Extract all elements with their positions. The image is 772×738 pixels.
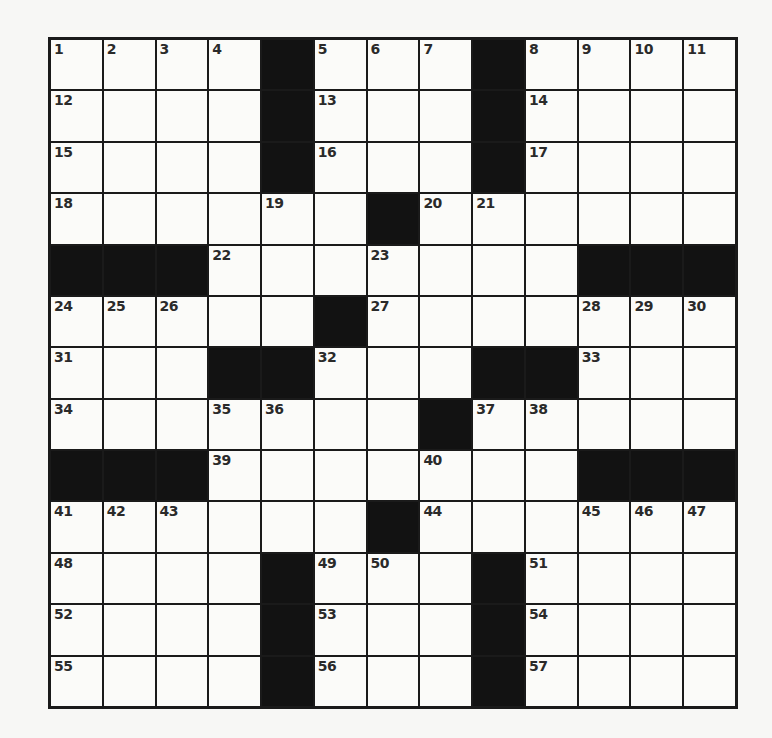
grid-cell[interactable]: 47 [684,502,735,551]
grid-cell[interactable]: 38 [526,400,577,449]
grid-cell[interactable]: 11 [684,40,735,89]
grid-cell[interactable]: 49 [315,554,366,603]
grid-cell[interactable] [684,605,735,654]
grid-cell[interactable]: 27 [368,297,419,346]
grid-cell[interactable] [631,657,682,706]
grid-cell[interactable]: 2 [104,40,155,89]
grid-cell[interactable]: 1 [51,40,102,89]
grid-cell[interactable] [157,143,208,192]
grid-cell[interactable]: 10 [631,40,682,89]
grid-cell[interactable] [209,502,260,551]
grid-cell[interactable] [157,194,208,243]
grid-cell[interactable] [579,657,630,706]
grid-cell[interactable] [579,143,630,192]
grid-cell[interactable]: 46 [631,502,682,551]
grid-cell[interactable] [157,348,208,397]
grid-cell[interactable] [420,657,471,706]
grid-cell[interactable] [262,502,313,551]
grid-cell[interactable]: 56 [315,657,366,706]
grid-cell[interactable] [104,194,155,243]
grid-cell[interactable]: 32 [315,348,366,397]
grid-cell[interactable]: 48 [51,554,102,603]
grid-cell[interactable] [104,143,155,192]
grid-cell[interactable] [262,246,313,295]
grid-cell[interactable] [526,451,577,500]
grid-cell[interactable] [473,502,524,551]
grid-cell[interactable]: 36 [262,400,313,449]
grid-cell[interactable]: 50 [368,554,419,603]
grid-cell[interactable] [368,657,419,706]
grid-cell[interactable] [315,194,366,243]
grid-cell[interactable] [631,194,682,243]
grid-cell[interactable] [104,400,155,449]
grid-cell[interactable]: 45 [579,502,630,551]
grid-cell[interactable] [209,657,260,706]
grid-cell[interactable]: 55 [51,657,102,706]
grid-cell[interactable]: 42 [104,502,155,551]
grid-cell[interactable]: 30 [684,297,735,346]
grid-cell[interactable] [579,194,630,243]
grid-cell[interactable] [315,502,366,551]
grid-cell[interactable]: 17 [526,143,577,192]
grid-cell[interactable]: 5 [315,40,366,89]
grid-cell[interactable]: 4 [209,40,260,89]
grid-cell[interactable]: 41 [51,502,102,551]
grid-cell[interactable]: 7 [420,40,471,89]
grid-cell[interactable] [526,194,577,243]
grid-cell[interactable] [526,246,577,295]
grid-cell[interactable]: 40 [420,451,471,500]
grid-cell[interactable]: 26 [157,297,208,346]
grid-cell[interactable]: 22 [209,246,260,295]
grid-cell[interactable] [631,348,682,397]
grid-cell[interactable] [526,297,577,346]
grid-cell[interactable] [315,246,366,295]
grid-cell[interactable]: 54 [526,605,577,654]
grid-cell[interactable] [104,91,155,140]
grid-cell[interactable]: 16 [315,143,366,192]
grid-cell[interactable]: 8 [526,40,577,89]
grid-cell[interactable] [473,451,524,500]
grid-cell[interactable] [684,400,735,449]
grid-cell[interactable] [315,400,366,449]
grid-cell[interactable] [209,194,260,243]
grid-cell[interactable]: 57 [526,657,577,706]
grid-cell[interactable]: 28 [579,297,630,346]
grid-cell[interactable] [104,348,155,397]
grid-cell[interactable] [209,605,260,654]
grid-cell[interactable] [473,246,524,295]
grid-cell[interactable] [631,91,682,140]
grid-cell[interactable]: 12 [51,91,102,140]
grid-cell[interactable]: 37 [473,400,524,449]
grid-cell[interactable]: 15 [51,143,102,192]
grid-cell[interactable] [473,297,524,346]
grid-cell[interactable] [631,554,682,603]
grid-cell[interactable] [209,91,260,140]
grid-cell[interactable] [209,554,260,603]
grid-cell[interactable] [631,143,682,192]
grid-cell[interactable]: 39 [209,451,260,500]
grid-cell[interactable] [631,605,682,654]
grid-cell[interactable] [209,143,260,192]
grid-cell[interactable] [526,502,577,551]
grid-cell[interactable] [420,348,471,397]
grid-cell[interactable] [579,605,630,654]
grid-cell[interactable] [368,400,419,449]
grid-cell[interactable] [420,143,471,192]
grid-cell[interactable] [420,554,471,603]
grid-cell[interactable] [368,451,419,500]
grid-cell[interactable] [157,554,208,603]
grid-cell[interactable] [684,194,735,243]
grid-cell[interactable] [420,605,471,654]
grid-cell[interactable]: 13 [315,91,366,140]
grid-cell[interactable]: 20 [420,194,471,243]
grid-cell[interactable] [157,91,208,140]
grid-cell[interactable] [368,143,419,192]
grid-cell[interactable]: 29 [631,297,682,346]
grid-cell[interactable] [684,554,735,603]
grid-cell[interactable] [104,554,155,603]
grid-cell[interactable] [368,91,419,140]
grid-cell[interactable]: 33 [579,348,630,397]
grid-cell[interactable] [262,451,313,500]
grid-cell[interactable]: 31 [51,348,102,397]
grid-cell[interactable]: 44 [420,502,471,551]
